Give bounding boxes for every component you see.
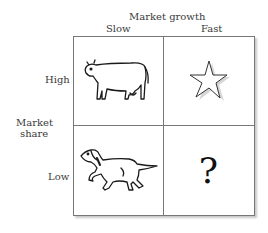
row-label-high: High	[45, 74, 70, 85]
cow-icon	[81, 53, 157, 109]
y-axis-title-line1: Market	[16, 117, 53, 128]
cell-low-slow	[74, 126, 163, 214]
question-mark-icon: ?	[199, 150, 218, 191]
cell-high-slow	[74, 37, 163, 125]
cell-high-fast	[164, 37, 253, 125]
star-icon	[186, 58, 232, 104]
cell-low-fast: ?	[164, 126, 253, 214]
y-axis-title-line2: share	[20, 128, 48, 139]
column-label-fast: Fast	[201, 23, 222, 34]
column-label-slow: Slow	[106, 23, 131, 34]
matrix-grid: ?	[73, 36, 255, 216]
dog-icon	[77, 146, 161, 194]
x-axis-title: Market growth	[129, 11, 205, 22]
row-label-low: Low	[48, 171, 69, 182]
